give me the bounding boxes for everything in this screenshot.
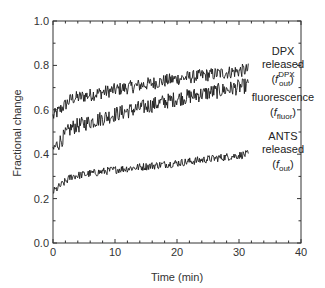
x-tick-label: 40: [295, 246, 307, 258]
y-tick-label: 0.6: [34, 104, 49, 116]
x-tick-label: 30: [233, 246, 245, 258]
y-tick-label: 0.4: [34, 148, 49, 160]
plot-frame: [53, 21, 301, 243]
series-label-text: ANTS: [268, 130, 297, 142]
series-label: fluorescence(ffluor): [252, 91, 314, 121]
chart: 0.00.20.40.60.81.0 010203040 DPXreleased…: [0, 0, 325, 288]
y-tick-label: 0.0: [34, 237, 49, 249]
y-axis: 0.00.20.40.60.81.0: [34, 15, 301, 249]
x-tick-label: 10: [109, 246, 121, 258]
data-traces: [53, 64, 248, 194]
series-label: DPXreleased(fDPXout): [262, 45, 304, 88]
series-symbol: (ffluor): [270, 106, 296, 121]
series-symbol: (fDPXout): [271, 70, 295, 88]
series-label: ANTSreleased(fout): [262, 130, 304, 173]
x-tick-label: 0: [50, 246, 56, 258]
y-axis-title: Fractional change: [11, 89, 23, 176]
series-annotations: DPXreleased(fDPXout)fluorescence(ffluor)…: [252, 45, 314, 173]
series-label-text: fluorescence: [252, 91, 314, 103]
series-label-text: DPX: [272, 45, 295, 57]
trace-line: [53, 151, 248, 194]
y-tick-label: 0.2: [34, 193, 49, 205]
series-label-text: released: [262, 58, 304, 70]
y-tick-label: 1.0: [34, 15, 49, 27]
y-tick-label: 0.8: [34, 59, 49, 71]
series-label-text: released: [262, 143, 304, 155]
series-symbol: (fout): [272, 158, 294, 173]
x-axis-title: Time (min): [151, 271, 203, 283]
plot-area: [53, 21, 301, 243]
trace-line: [53, 79, 248, 150]
x-tick-label: 20: [171, 246, 183, 258]
